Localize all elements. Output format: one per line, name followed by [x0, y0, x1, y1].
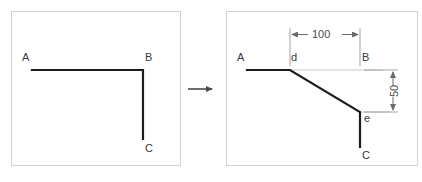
- polyline-after: [247, 70, 360, 147]
- polyline-adec: [247, 70, 360, 147]
- vertex-label-C-before: C: [145, 143, 153, 154]
- polyline-before: [32, 70, 143, 139]
- vertex-label-B-before: B: [145, 52, 152, 63]
- polyline-abc: [32, 70, 143, 139]
- vertex-label-e-after: e: [364, 113, 370, 124]
- figure-root: A B C A d B e C 100 50: [0, 0, 422, 182]
- vertex-label-A-before: A: [22, 52, 29, 63]
- vertex-label-C-after: C: [362, 150, 370, 161]
- construction-lines: [290, 70, 390, 112]
- dimension-value-vertical: 50: [389, 85, 400, 97]
- vertex-label-B-after: B: [362, 52, 369, 63]
- vertex-label-d-after: d: [291, 52, 297, 63]
- vertex-label-A-after: A: [237, 52, 244, 63]
- dimension-value-horizontal: 100: [312, 29, 330, 40]
- diagram-vector-layer: [0, 0, 422, 182]
